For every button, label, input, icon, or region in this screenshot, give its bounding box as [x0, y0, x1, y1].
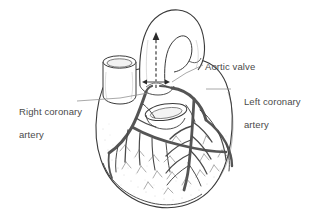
- label-right-coronary-artery: Right coronary artery: [8, 94, 82, 152]
- label-aortic-valve: Aortic valve: [205, 61, 255, 73]
- figure-canvas: Aortic valve Left coronary artery Right …: [0, 0, 312, 219]
- superior-vena-cava-stump: [103, 56, 136, 104]
- label-left-coronary-line1: Left coronary: [244, 96, 301, 107]
- label-left-coronary-artery: Left coronary artery: [233, 84, 301, 142]
- label-left-coronary-line2: artery: [244, 119, 269, 130]
- svc-rim-inner: [107, 59, 132, 67]
- label-right-coronary-line2: artery: [19, 129, 44, 140]
- label-right-coronary-line1: Right coronary: [19, 106, 82, 117]
